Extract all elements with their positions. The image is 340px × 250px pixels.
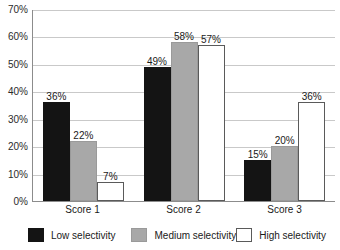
bar-slot: 20%: [271, 10, 298, 201]
bar-slot: 36%: [43, 10, 70, 201]
bar-value-label: 15%: [248, 149, 268, 160]
y-axis: 70%60%50%40%30%20%10%0%: [0, 0, 32, 212]
bar-chart: 70%60%50%40%30%20%10%0% 36%22%7%49%58%57…: [0, 0, 340, 250]
legend-swatch-icon: [28, 228, 44, 242]
y-axis-tick-label: 50%: [8, 60, 28, 70]
bar-slot: 15%: [244, 10, 271, 201]
bar-slot: 36%: [298, 10, 325, 201]
y-axis-tick-label: 10%: [8, 170, 28, 180]
y-axis-tick-label: 20%: [8, 142, 28, 152]
bar-value-label: 57%: [201, 34, 221, 45]
category-label: Score 2: [133, 203, 234, 218]
category-axis: Score 1Score 2Score 3: [32, 203, 335, 218]
plot-area: 36%22%7%49%58%57%15%20%36%: [32, 10, 335, 202]
legend-item[interactable]: High selectivity: [236, 228, 328, 242]
category-label: Score 3: [234, 203, 335, 218]
bar-value-label: 7%: [103, 171, 117, 182]
bar-slot: 58%: [171, 10, 198, 201]
bar[interactable]: 36%: [43, 102, 70, 201]
legend-swatch-icon: [131, 228, 147, 242]
y-axis-tick-label: 0%: [14, 197, 28, 207]
bar[interactable]: 20%: [271, 146, 298, 201]
bar-group: 36%22%7%: [33, 10, 134, 201]
bar-group: 49%58%57%: [134, 10, 235, 201]
bar-group: 15%20%36%: [234, 10, 335, 201]
category-label: Score 1: [32, 203, 133, 218]
legend-item[interactable]: Low selectivity: [28, 228, 131, 242]
bar[interactable]: 36%: [298, 102, 325, 201]
bar[interactable]: 7%: [97, 182, 124, 201]
bar[interactable]: 15%: [244, 160, 271, 201]
bar-value-label: 22%: [73, 130, 93, 141]
bar[interactable]: 49%: [144, 67, 171, 201]
y-axis-tick-label: 60%: [8, 32, 28, 42]
legend-item[interactable]: Medium selectivity: [131, 228, 236, 242]
legend-label: High selectivity: [259, 230, 326, 241]
bar-slot: 57%: [198, 10, 225, 201]
y-axis-tick-label: 70%: [8, 5, 28, 15]
bar-value-label: 36%: [302, 91, 322, 102]
bar[interactable]: 22%: [70, 141, 97, 201]
y-axis-tick-label: 40%: [8, 87, 28, 97]
bar[interactable]: 57%: [198, 45, 225, 201]
y-axis-tick-label: 30%: [8, 115, 28, 125]
bar-slot: 22%: [70, 10, 97, 201]
chart-legend: Low selectivityMedium selectivityHigh se…: [28, 226, 328, 244]
legend-label: Medium selectivity: [154, 230, 236, 241]
bar-value-label: 58%: [174, 31, 194, 42]
legend-label: Low selectivity: [51, 230, 115, 241]
bar[interactable]: 58%: [171, 42, 198, 201]
bar-groups: 36%22%7%49%58%57%15%20%36%: [33, 10, 335, 201]
bar-value-label: 20%: [275, 135, 295, 146]
legend-swatch-icon: [236, 228, 252, 242]
bar-value-label: 36%: [46, 91, 66, 102]
bar-value-label: 49%: [147, 56, 167, 67]
bar-slot: 49%: [144, 10, 171, 201]
bar-slot: 7%: [97, 10, 124, 201]
